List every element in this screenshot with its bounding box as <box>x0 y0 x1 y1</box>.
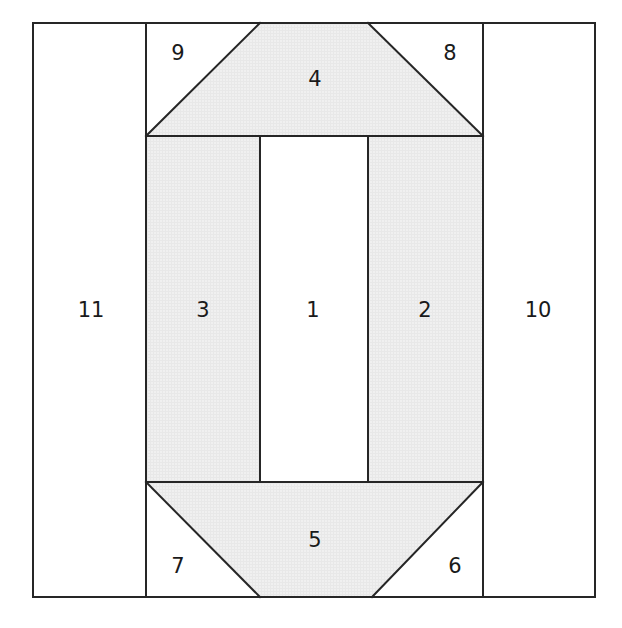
region-3-label: 3 <box>196 298 209 322</box>
region-4-label: 4 <box>308 67 321 91</box>
region-11-label: 11 <box>78 298 105 322</box>
geometric-diagram: 1234567891011 <box>0 0 622 628</box>
region-1-label: 1 <box>306 298 319 322</box>
region-5-label: 5 <box>308 528 321 552</box>
region-10-label: 10 <box>525 298 552 322</box>
region-2-label: 2 <box>418 298 431 322</box>
region-7-label: 7 <box>171 554 184 578</box>
region-9-label: 9 <box>171 41 184 65</box>
figure-root: 1234567891011 <box>0 0 622 628</box>
region-8-label: 8 <box>443 41 456 65</box>
region-6-label: 6 <box>448 554 461 578</box>
